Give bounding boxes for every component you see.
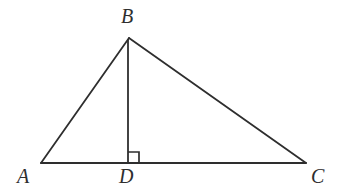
geometry-canvas (0, 0, 340, 195)
vertex-label-d: D (119, 166, 133, 186)
vertex-label-a: A (17, 166, 29, 186)
vertex-label-c: C (311, 166, 324, 186)
figure-background (0, 0, 340, 195)
geometry-figure: A B C D (0, 0, 340, 195)
vertex-label-b: B (121, 6, 133, 26)
